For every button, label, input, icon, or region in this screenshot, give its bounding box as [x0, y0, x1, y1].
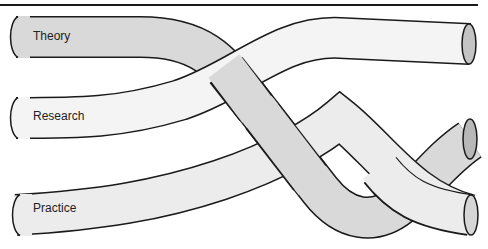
practice-right-cap [464, 195, 478, 235]
label-research: Research [33, 109, 84, 123]
label-theory: Theory [33, 29, 70, 43]
braided-strands-diagram: Theory Research Practice [0, 0, 488, 249]
strand-theory-over-research [224, 66, 258, 111]
research-right-cap [462, 24, 476, 64]
theory-right-cap [463, 119, 477, 159]
label-practice: Practice [33, 201, 76, 215]
